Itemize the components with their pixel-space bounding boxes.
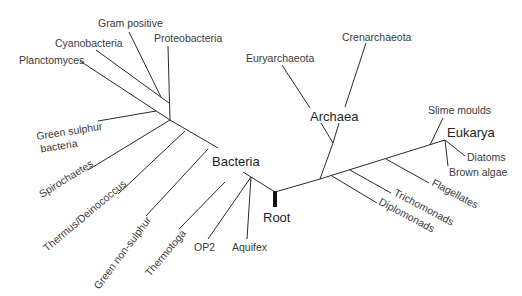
proteobacteria-branch: [168, 46, 170, 120]
brown-algae-branch: [445, 140, 448, 166]
bacteria-trunk-lower: [251, 177, 275, 192]
bacteria-trunk-upper: [170, 120, 218, 148]
archaea-right-fork: [333, 123, 339, 143]
gram-positive-label: Gram positive: [98, 17, 163, 29]
eukarya-domain-label: Eukarya: [447, 125, 495, 140]
bacteria-trunk-stub: [243, 172, 251, 177]
planctomyces-label: Planctomyces: [19, 54, 84, 66]
archaea-left-fork: [321, 123, 333, 143]
flagellates-label: Flagellates: [430, 176, 480, 210]
root-to-archaea-line: [275, 179, 320, 192]
root-node: Root: [263, 191, 291, 225]
root-label: Root: [263, 210, 291, 225]
eukarya-trunk: [320, 140, 445, 179]
thermotoga-branch: [179, 182, 225, 229]
euryarchaeota-label: Euryarchaeota: [246, 52, 314, 64]
thermotoga-label: Thermotoga: [142, 227, 188, 278]
crenarchaeota-label: Crenarchaeota: [342, 31, 412, 43]
diplomonads-branch: [332, 176, 377, 203]
bacteria-domain-label: Bacteria: [212, 154, 260, 169]
archaea-stem: [320, 143, 333, 179]
bacteria-clade: Bacteria Aquifex OP2 Thermotoga Green no…: [19, 17, 275, 291]
diatoms-label: Diatoms: [467, 151, 506, 163]
slime-moulds-label: Slime moulds: [428, 104, 491, 116]
green-non-sulphur-label: Green non-sulphur: [91, 214, 154, 292]
aquifex-label: Aquifex: [232, 241, 268, 253]
flagellates-branch: [386, 159, 429, 183]
brown-algae-label: Brown algae: [449, 166, 508, 178]
op2-label: OP2: [194, 241, 215, 253]
archaea-clade: Archaea Euryarchaeota Crenarchaeota: [246, 31, 412, 179]
archaea-domain-label: Archaea: [310, 109, 359, 124]
op2-branch: [208, 177, 251, 239]
diatoms-branch: [445, 140, 465, 156]
trichomonads-branch: [350, 170, 391, 193]
euryarchaeota-branch: [282, 65, 310, 108]
cyanobacteria-label: Cyanobacteria: [55, 37, 123, 49]
phylogenetic-tree: Root Bacteria Aquifex OP2 Thermotoga Gre…: [0, 0, 522, 296]
spirochaetes-label: Spirochaetes: [37, 157, 95, 200]
aquifex-branch: [247, 177, 251, 239]
green-sulphur-branch: [98, 111, 156, 121]
green-sulphur-label: Green sulphur bacteria: [35, 119, 108, 155]
proteobacteria-label: Proteobacteria: [154, 32, 222, 44]
crenarchaeota-branch: [345, 43, 366, 107]
planctomyces-branch: [80, 61, 170, 120]
